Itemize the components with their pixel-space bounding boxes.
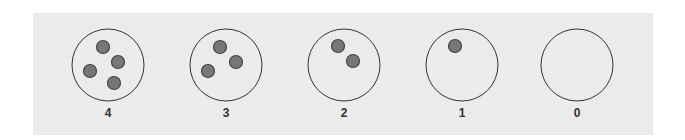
dot <box>332 40 345 53</box>
group-label-3: 3 <box>206 106 246 120</box>
dot <box>112 56 125 69</box>
dot <box>214 41 227 54</box>
dot <box>108 77 121 90</box>
dot <box>449 40 462 53</box>
group-circle-3 <box>190 29 262 101</box>
dot <box>84 65 97 78</box>
group-circle-2 <box>308 29 380 101</box>
dot <box>347 55 360 68</box>
group-circle-4 <box>72 29 144 101</box>
dot <box>230 56 243 69</box>
group-label-0: 0 <box>557 106 597 120</box>
dot <box>202 65 215 78</box>
dot <box>97 41 110 54</box>
group-label-4: 4 <box>88 106 128 120</box>
group-circle-0 <box>541 29 613 101</box>
group-label-2: 2 <box>324 106 364 120</box>
group-circle-1 <box>426 29 498 101</box>
group-label-1: 1 <box>442 106 482 120</box>
